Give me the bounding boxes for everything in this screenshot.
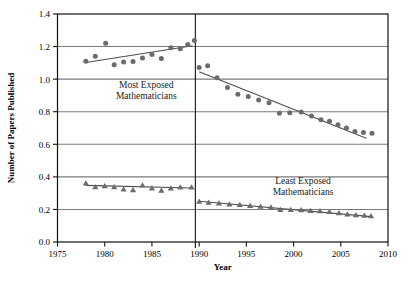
xtick-label-1995: 1995 <box>237 249 256 259</box>
ytick-label-0.4: 0.4 <box>39 172 51 182</box>
trend-line-series-1 <box>199 72 366 139</box>
ytick-label-0.8: 0.8 <box>39 107 51 117</box>
data-point-circle <box>344 126 349 131</box>
data-point-circle <box>215 75 220 80</box>
data-point-circle <box>235 92 240 97</box>
plot-frame <box>58 14 389 242</box>
least-exposed-label-line2: Mathematicians <box>273 187 334 197</box>
data-point-circle <box>287 110 292 115</box>
ytick-label-0.2: 0.2 <box>39 205 50 215</box>
data-point-circle <box>159 56 164 61</box>
data-point-circle <box>168 45 173 50</box>
data-point-circle <box>121 60 126 65</box>
data-point-circle <box>309 113 314 118</box>
data-point-circle <box>369 131 374 136</box>
xtick-label-2000: 2000 <box>285 249 304 259</box>
trend-line-series-2 <box>86 185 192 188</box>
most-exposed-label-line2: Mathematicians <box>116 91 177 101</box>
most-exposed-label-line1: Most Exposed <box>119 80 174 90</box>
data-point-triangle <box>149 185 155 190</box>
data-point-triangle <box>83 180 89 185</box>
data-point-triangle <box>177 184 183 189</box>
data-point-circle <box>335 122 340 127</box>
data-point-circle <box>299 110 304 115</box>
papers-published-scatter-chart: 19751980198519901995200020052010 0.00.20… <box>0 0 408 286</box>
data-point-triangle <box>268 204 274 209</box>
xtick-label-1975: 1975 <box>49 249 68 259</box>
y-axis-ticks: 0.00.20.40.60.81.01.21.4 <box>39 9 58 247</box>
x-axis-title: Year <box>214 262 232 272</box>
xtick-label-1985: 1985 <box>143 249 162 259</box>
data-point-circle <box>149 52 154 57</box>
xtick-label-2010: 2010 <box>379 249 398 259</box>
trend-line-series-0 <box>86 46 193 63</box>
data-point-circle <box>361 130 366 135</box>
plot-area-border <box>58 14 389 242</box>
data-point-circle <box>131 59 136 64</box>
data-point-triangle <box>336 210 342 215</box>
xtick-label-1980: 1980 <box>96 249 115 259</box>
data-point-circle <box>140 55 145 60</box>
data-point-circle <box>93 54 98 59</box>
data-point-circle <box>192 38 197 43</box>
chart-figure: 19751980198519901995200020052010 0.00.20… <box>0 0 408 286</box>
data-point-triangle <box>368 213 374 218</box>
data-point-triangle <box>121 186 127 191</box>
data-point-triangle <box>158 188 164 193</box>
data-point-triangle <box>92 184 98 189</box>
data-point-circle <box>103 41 108 46</box>
data-point-circle <box>267 100 272 105</box>
data-point-triangle <box>361 213 367 218</box>
data-point-circle <box>277 111 282 116</box>
data-point-triangle <box>139 182 145 187</box>
data-point-circle <box>205 63 210 68</box>
data-point-circle <box>256 97 261 102</box>
x-axis-ticks: 19751980198519901995200020052010 <box>49 242 398 259</box>
data-point-circle <box>318 117 323 122</box>
ytick-label-1.0: 1.0 <box>39 75 51 85</box>
ytick-label-1.2: 1.2 <box>39 42 50 52</box>
data-point-circle <box>246 94 251 99</box>
grid-lines <box>58 47 389 210</box>
series-annotations: Most ExposedMathematiciansLeast ExposedM… <box>116 80 334 197</box>
ytick-label-0.6: 0.6 <box>39 140 51 150</box>
data-point-circle <box>83 59 88 64</box>
data-point-circle <box>197 65 202 70</box>
y-axis-title: Number of Papers Published <box>6 73 16 184</box>
least-exposed-label-line1: Least Exposed <box>275 176 331 186</box>
data-point-triangle <box>317 208 323 213</box>
xtick-label-1990: 1990 <box>190 249 209 259</box>
data-point-circle <box>178 46 183 51</box>
data-point-circle <box>112 62 117 67</box>
data-point-circle <box>327 119 332 124</box>
ytick-label-1.4: 1.4 <box>39 9 51 19</box>
xtick-label-2005: 2005 <box>332 249 351 259</box>
data-point-triangle <box>130 187 136 192</box>
data-point-triangle <box>188 184 194 189</box>
ytick-label-0.0: 0.0 <box>39 237 51 247</box>
data-point-circle <box>185 42 190 47</box>
data-point-triangle <box>307 208 313 213</box>
data-point-circle <box>352 129 357 134</box>
data-point-circle <box>225 85 230 90</box>
